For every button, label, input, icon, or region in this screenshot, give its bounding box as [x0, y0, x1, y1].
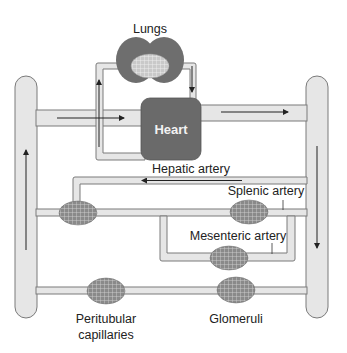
- circulation-diagram: Lungs Heart Hepatic artery Splenic arter…: [0, 0, 347, 353]
- peritubular-capillary-bed: [87, 278, 125, 304]
- renal-tube: [36, 287, 307, 294]
- lungs-organ: [116, 37, 184, 83]
- peritubular-label-line1: Peritubular: [76, 312, 136, 326]
- lung-capillary-bed: [131, 54, 169, 78]
- aorta-tube: [196, 105, 307, 121]
- mesenteric-artery-label: Mesenteric artery: [190, 229, 287, 243]
- heart-label: Heart: [154, 122, 188, 137]
- mesenteric-capillary-bed: [210, 246, 248, 270]
- leader-lines: [272, 200, 283, 254]
- splenic-artery-label: Splenic artery: [228, 184, 305, 198]
- glomeruli-capillary-bed: [217, 277, 255, 303]
- hepatic-artery-label: Hepatic artery: [152, 162, 231, 176]
- glomeruli-label: Glomeruli: [209, 312, 263, 326]
- liver-capillary-bed: [59, 201, 97, 225]
- peritubular-label-line2: capillaries: [78, 328, 134, 342]
- lungs-label: Lungs: [133, 22, 167, 36]
- spleen-capillary-bed: [230, 200, 268, 224]
